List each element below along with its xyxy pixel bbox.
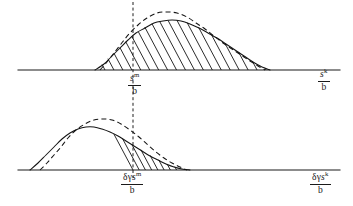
lower-distribution-plot — [18, 119, 340, 170]
fraction-denominator: b — [128, 86, 141, 97]
superscript-k: k — [324, 67, 328, 74]
fraction: sm b — [128, 74, 141, 96]
fraction: δγsk b — [310, 173, 331, 195]
hatch-line — [114, 53, 123, 70]
symbol-delta-gamma: δγ — [312, 172, 321, 182]
superscript-m: m — [134, 71, 140, 78]
hatch-line — [132, 36, 150, 70]
hatch-line — [239, 52, 249, 70]
fraction-numerator: sk — [318, 70, 330, 81]
hatch-line — [138, 32, 158, 70]
hatch-line — [132, 144, 146, 170]
symbol-delta-gamma: δγ — [123, 172, 132, 182]
distribution-figure-svg — [0, 0, 353, 206]
fraction-denominator: b — [121, 185, 143, 196]
hatch-line — [141, 150, 152, 170]
lower-solid-curve — [30, 127, 190, 170]
fraction-denominator: b — [318, 82, 330, 93]
hatch-line — [145, 27, 168, 70]
superscript-k: k — [325, 170, 329, 177]
fraction: δγsm b — [121, 173, 143, 195]
hatch-line — [120, 47, 132, 70]
fraction-numerator: δγsm — [121, 173, 143, 184]
upper-right-axis-label: sk b — [318, 70, 330, 92]
upper-dashed-curve — [100, 12, 265, 70]
hatch-line — [211, 34, 230, 70]
lower-dashed-curve — [40, 119, 187, 170]
upper-hatch-fill — [102, 20, 266, 70]
upper-mid-axis-label: sm b — [128, 74, 141, 96]
lower-mid-axis-label: δγsm b — [121, 173, 143, 195]
superscript-m: m — [136, 170, 142, 177]
upper-distribution-plot — [18, 12, 340, 70]
fraction-numerator: sm — [128, 74, 141, 85]
fraction-denominator: b — [310, 185, 331, 196]
figure-container: sm b sk b δγsm b δγsk b — [0, 0, 353, 206]
fraction-numerator: δγsk — [310, 173, 331, 184]
lower-right-axis-label: δγsk b — [310, 173, 331, 195]
fraction: sk b — [318, 70, 330, 92]
hatch-line — [225, 43, 239, 70]
